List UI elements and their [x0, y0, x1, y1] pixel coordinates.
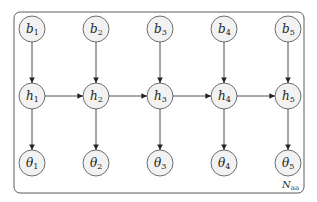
node-theta1: θ1 [19, 150, 45, 176]
node-theta5: θ5 [275, 150, 301, 176]
node-h3: h3 [147, 83, 173, 109]
node-h1: h1 [19, 83, 45, 109]
node-theta4: θ4 [211, 150, 237, 176]
node-h4: h4 [211, 83, 237, 109]
node-b5: b5 [275, 16, 301, 42]
node-theta2: θ2 [83, 150, 109, 176]
node-b3: b3 [147, 16, 173, 42]
plate-label: Naa [281, 179, 299, 192]
node-b4: b4 [211, 16, 237, 42]
node-h5: h5 [275, 83, 301, 109]
node-h2: h2 [83, 83, 109, 109]
node-b2: b2 [83, 16, 109, 42]
node-theta3: θ3 [147, 150, 173, 176]
graphical-model-diagram: Naa b1b2b3b4b5h1h2h3h4h5θ1θ2θ3θ4θ5 [0, 0, 317, 202]
node-b1: b1 [19, 16, 45, 42]
